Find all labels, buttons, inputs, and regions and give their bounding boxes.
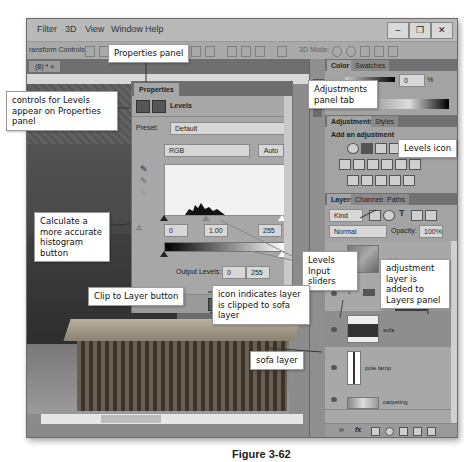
- callout-clipped-icon: icon indicates layer is clipped to sofa …: [212, 285, 310, 325]
- figure-caption: Figure 3-62: [232, 448, 291, 460]
- callout-levels-sliders: Levels Input sliders: [302, 251, 358, 291]
- callout-adjustment-layer-added: adjustment layer is added to Layers pane…: [380, 259, 450, 309]
- callout-calculate-histogram: Calculate a more accurate histogram butt…: [34, 212, 110, 262]
- callout-properties-panel: Properties panel: [108, 44, 189, 63]
- callout-clip-to-layer: Clip to Layer button: [88, 287, 184, 306]
- callout-levels-icon: Levels icon: [398, 139, 457, 158]
- callout-controls-for-levels: controls for Levels appear on Properties…: [6, 91, 118, 131]
- callout-adjustments-tab: Adjustments panel tab: [308, 80, 378, 109]
- callout-sofa-layer: sofa layer: [250, 351, 304, 370]
